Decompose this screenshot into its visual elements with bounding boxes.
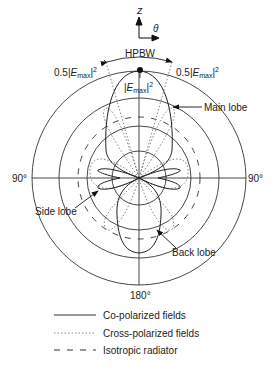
angle-label-right: 90°	[248, 173, 263, 184]
theta-label: θ	[153, 23, 159, 34]
legend-label-cross-polarized: Cross-polarized fields	[103, 328, 199, 339]
legend-label-isotropic: Isotropic radiator	[103, 345, 178, 356]
angle-label-left: 90°	[12, 173, 27, 184]
side-lobe-left	[98, 169, 139, 190]
angle-label-bottom: 180°	[130, 290, 151, 301]
z-axis-label: z	[136, 4, 143, 16]
radiation-pattern-diagram: z θ HPBW 0.5|Emax|2 0.5|Emax|2 |Emax|2 M…	[0, 0, 277, 369]
legend: Co-polarized fields Cross-polarized fiel…	[54, 310, 199, 356]
hpbw-label: HPBW	[125, 48, 156, 59]
half-power-right-label: 0.5|Emax|2	[176, 66, 219, 79]
legend-label-co-polarized: Co-polarized fields	[103, 310, 186, 321]
back-lobe-label: Back lobe	[172, 247, 216, 258]
half-power-left-label: 0.5|Emax|2	[54, 66, 97, 79]
side-lobe-right	[139, 169, 180, 190]
side-lobe-label: Side lobe	[35, 206, 77, 217]
main-lobe-label: Main lobe	[204, 102, 248, 113]
